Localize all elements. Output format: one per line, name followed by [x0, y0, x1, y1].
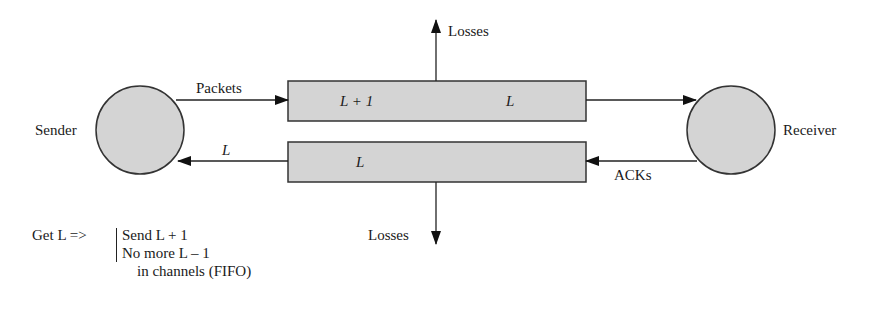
packets-label: Packets: [196, 79, 242, 97]
backward-channel: [288, 142, 586, 182]
forward-channel: [288, 81, 586, 121]
forward-channel-right-label: L: [506, 92, 514, 110]
note-line-1: Send L + 1: [122, 226, 188, 244]
diagram-canvas: [0, 0, 879, 311]
sender-node: [96, 86, 184, 174]
note-line-2: No more L – 1: [122, 244, 210, 262]
note-line-3: in channels (FIFO): [137, 262, 251, 280]
note-bracket: [116, 228, 117, 262]
receiver-label: Receiver: [783, 121, 836, 139]
forward-channel-left-label: L + 1: [340, 92, 373, 110]
acks-label: ACKs: [614, 166, 652, 184]
note-lead: Get L =>: [32, 226, 87, 244]
losses-bottom-label: Losses: [368, 226, 409, 244]
ack-to-sender-label: L: [222, 141, 230, 159]
sender-label: Sender: [35, 121, 77, 139]
receiver-node: [687, 86, 775, 174]
losses-top-label: Losses: [448, 22, 489, 40]
backward-channel-label: L: [356, 153, 364, 171]
